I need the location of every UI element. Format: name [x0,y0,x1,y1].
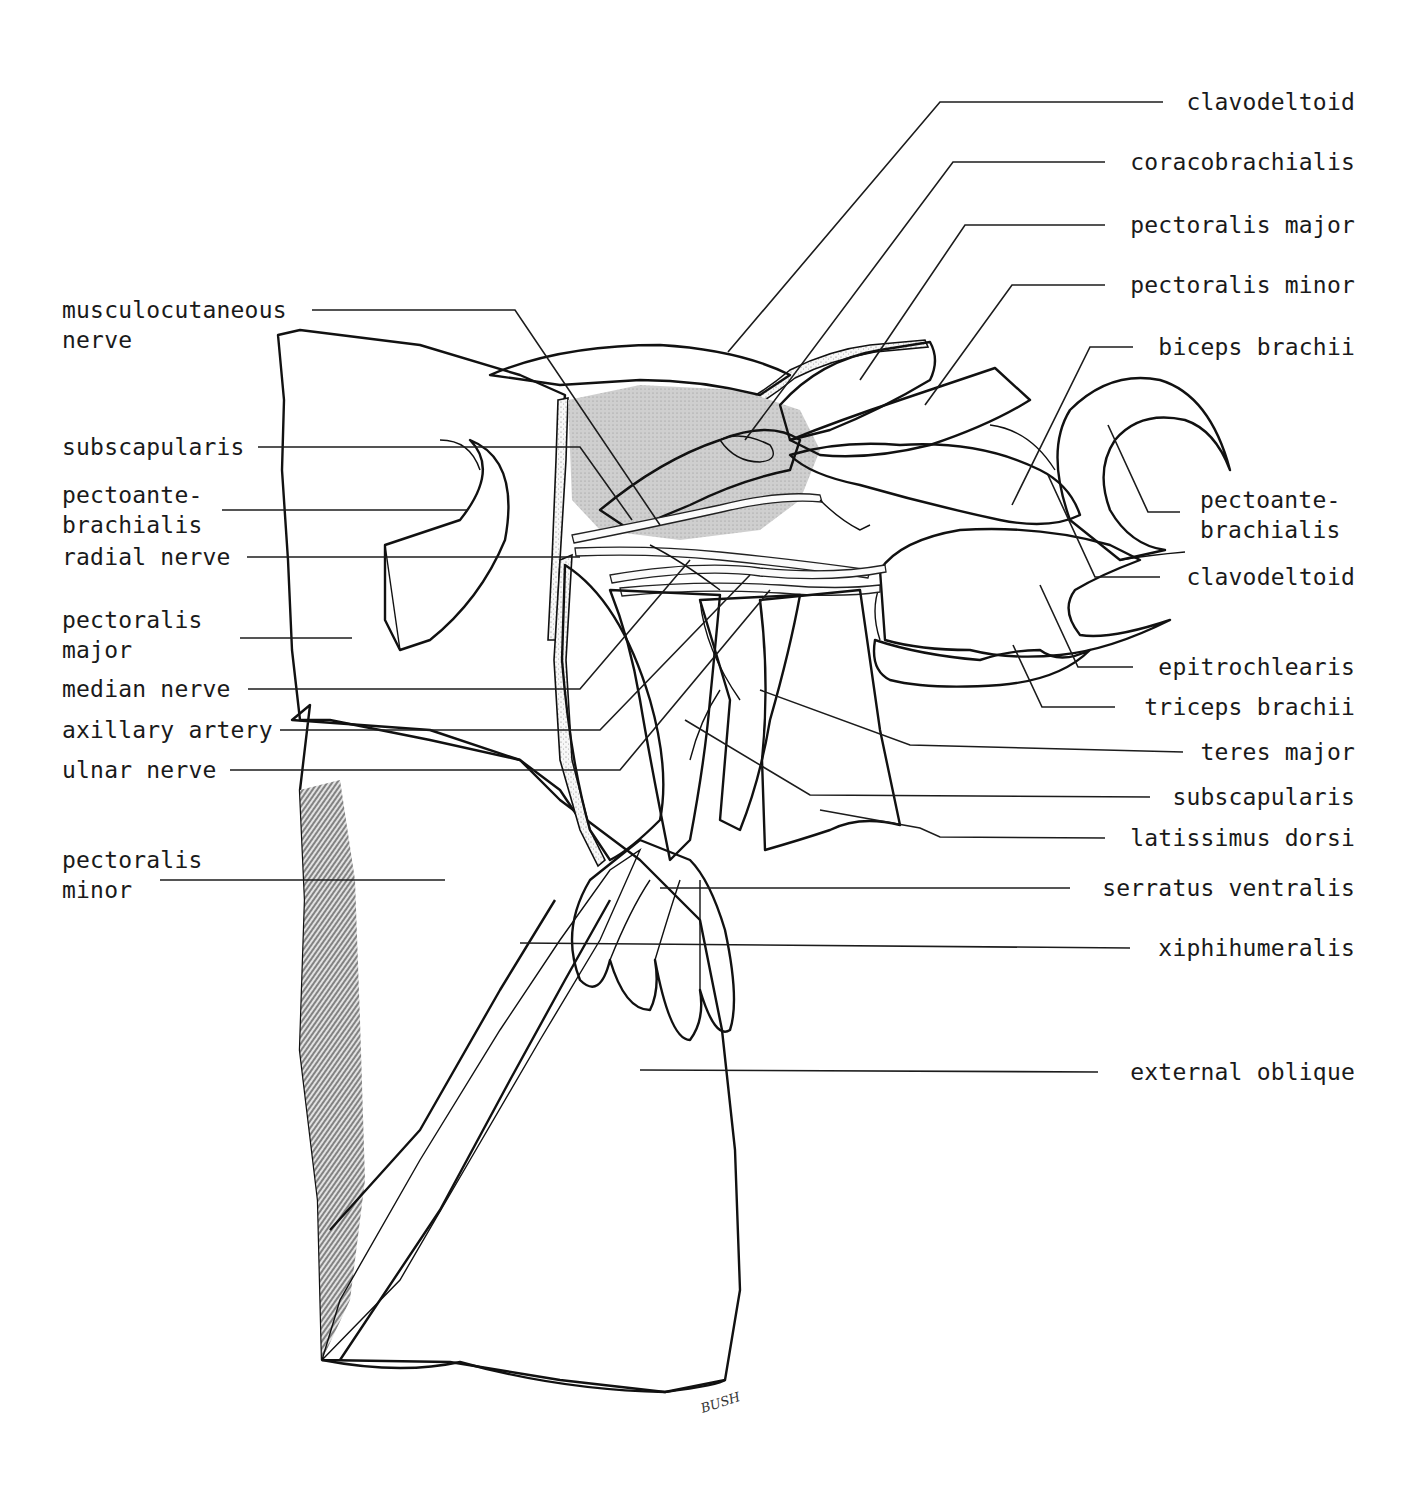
label-latissimus-dorsi: latissimus dorsi [1130,823,1355,853]
label-axillary-artery: axillary artery [62,715,273,745]
label-pectoantebrachialis-right: pectoante- brachialis [1200,485,1340,545]
label-coracobrachialis: coracobrachialis [1130,147,1355,177]
pectoralis-major-flap [278,330,580,820]
trunk-muscles [292,705,740,1392]
label-subscapularis-right: subscapularis [1172,782,1355,812]
label-pectoantebrachialis-left: pectoante- brachialis [62,480,202,540]
label-pectoralis-major-left: pectoralis major [62,605,202,665]
serratus-ventralis-slips [572,840,734,1040]
label-pectoralis-major-right: pectoralis major [1130,210,1355,240]
label-musculocutaneous-nerve: musculocutaneous nerve [62,295,287,355]
label-clavodeltoid-mid: clavodeltoid [1186,562,1355,592]
label-xiphihumeralis: xiphihumeralis [1158,933,1355,963]
label-radial-nerve: radial nerve [62,542,231,572]
label-subscapularis-left: subscapularis [62,432,245,462]
label-pectoralis-minor-right: pectoralis minor [1130,270,1355,300]
label-triceps-brachii: triceps brachii [1144,692,1355,722]
label-ulnar-nerve: ulnar nerve [62,755,217,785]
label-pectoralis-minor-left: pectoralis minor [62,845,202,905]
label-median-nerve: median nerve [62,674,231,704]
label-epitrochlearis: epitrochlearis [1158,652,1355,682]
label-biceps-brachii: biceps brachii [1158,332,1355,362]
label-clavodeltoid-top: clavodeltoid [1186,87,1355,117]
label-serratus-ventralis: serratus ventralis [1102,873,1355,903]
fascia-edge-middle [554,555,605,866]
label-teres-major: teres major [1200,737,1355,767]
label-external-oblique: external oblique [1130,1057,1355,1087]
